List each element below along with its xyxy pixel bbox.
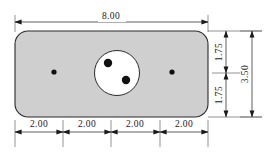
plate-hole-right <box>169 69 174 74</box>
central-bore-circle <box>95 51 140 96</box>
bore-hole-upper-left <box>104 59 112 67</box>
dimension-label-segment-2: 2.00 <box>78 119 96 129</box>
dimension-label-overall-width: 8.00 <box>102 11 120 21</box>
dimension-label-upper-half: 1.75 <box>214 43 224 61</box>
dimension-overall-height: 3.50 <box>240 31 262 117</box>
dimension-overall-width: 8.00 <box>15 11 208 22</box>
dimension-label-lower-half: 1.75 <box>214 86 224 104</box>
dimension-right-chain: 1.75 1.75 <box>214 31 226 117</box>
dimension-label-segment-3: 2.00 <box>126 119 144 129</box>
bore-hole-lower-right <box>122 76 130 84</box>
dimension-label-segment-1: 2.00 <box>30 119 48 129</box>
dimension-label-segment-4: 2.00 <box>175 119 193 129</box>
plate-hole-left <box>51 69 56 74</box>
dimension-bottom-chain: 2.00 2.00 2.00 2.00 <box>15 119 208 132</box>
engineering-drawing: 8.00 2.00 2.00 2.00 2.00 1.75 1.75 3.50 <box>0 0 270 157</box>
drawing-canvas: 8.00 2.00 2.00 2.00 2.00 1.75 1.75 3.50 <box>0 0 270 157</box>
dimension-label-overall-height: 3.50 <box>240 65 250 83</box>
